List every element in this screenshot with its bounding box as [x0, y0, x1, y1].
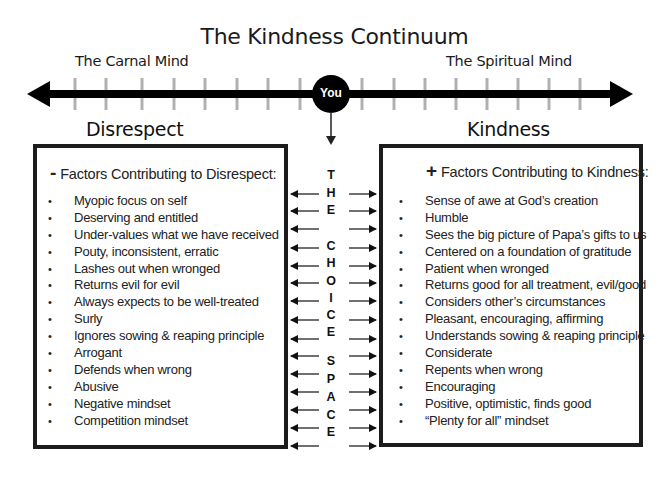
choice-letter: O [321, 274, 341, 288]
choice-letter: C [321, 239, 341, 253]
choice-letter: E [321, 325, 341, 339]
kindness-box: +Factors Contributing to Kindness: •Sens… [379, 144, 643, 447]
left-arrowhead-icon [27, 81, 50, 107]
choice-letter: C [321, 408, 341, 422]
right-arrowhead-icon [610, 81, 633, 107]
down-arrowhead-icon [326, 136, 336, 145]
disrespect-heading: Disrespect [86, 118, 183, 140]
you-label: You [312, 86, 350, 100]
choice-letter: H [321, 256, 341, 270]
disrespect-header-text: Factors Contributing to Disrespect: [60, 166, 276, 182]
choice-letter: I [321, 291, 341, 305]
minus-icon: - [50, 162, 56, 183]
disrespect-box-header: -Factors Contributing to Disrespect: [50, 162, 276, 184]
disrespect-box: -Factors Contributing to Disrespect: •My… [33, 144, 288, 449]
choice-letter: E [321, 203, 341, 217]
choice-letter: H [321, 186, 341, 200]
choice-letter: E [321, 425, 341, 439]
choice-letter: T [321, 168, 341, 182]
kindness-header-text: Factors Contributing to Kindness: [441, 164, 649, 180]
choice-letter: P [321, 372, 341, 386]
kindness-box-header: +Factors Contributing to Kindness: [426, 160, 649, 182]
choice-letter: S [321, 354, 341, 368]
choice-letter: C [321, 308, 341, 322]
plus-icon: + [426, 160, 437, 181]
choice-letter: A [321, 390, 341, 404]
kindness-heading: Kindness [467, 118, 550, 140]
